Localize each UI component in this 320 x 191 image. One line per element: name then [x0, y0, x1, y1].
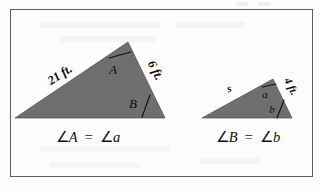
figure-page: A B 21 ft. 6 ft. a b s 4 ft. ∠A=∠a ∠B=∠b	[0, 0, 320, 191]
angle-label-b: b	[269, 103, 275, 115]
caption-angle-A-equals-a: ∠A=∠a	[56, 129, 120, 145]
caption-equals: =	[245, 129, 253, 145]
angle-label-A: A	[108, 62, 117, 77]
angle-symbol: ∠	[56, 129, 69, 145]
caption-term-b: b	[273, 129, 280, 145]
caption-term-B: B	[229, 129, 238, 145]
caption-equals: =	[85, 129, 93, 145]
angle-label-a: a	[262, 88, 268, 100]
angle-symbol: ∠	[100, 129, 113, 145]
angle-symbol: ∠	[260, 129, 273, 145]
caption-term-a: a	[113, 129, 120, 145]
geometry-figure: A B 21 ft. 6 ft. a b s 4 ft. ∠A=∠a ∠B=∠b	[0, 0, 320, 191]
side-label-s: s	[224, 82, 232, 95]
caption-angle-B-equals-b: ∠B=∠b	[216, 129, 280, 145]
side-label-6ft: 6 ft.	[145, 58, 166, 82]
side-label-4ft: 4 ft.	[282, 75, 301, 97]
small-triangle-shape	[202, 79, 292, 118]
large-triangle-shape	[15, 42, 165, 118]
caption-term-A: A	[68, 129, 78, 145]
angle-label-B: B	[129, 96, 137, 111]
angle-symbol: ∠	[216, 129, 229, 145]
